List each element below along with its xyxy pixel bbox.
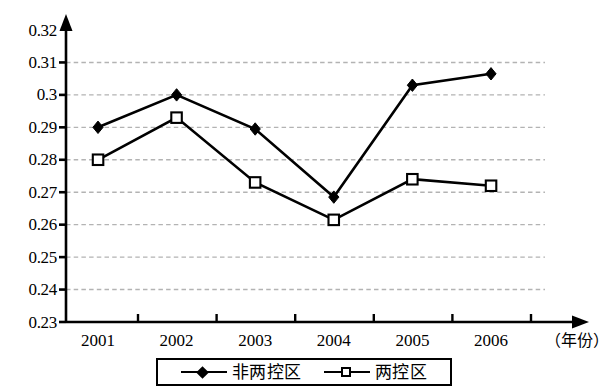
legend-item-label: 两控区 (375, 363, 428, 381)
x-axis-tick-label: 2001 (63, 332, 133, 350)
legend-item-non-two-control-zone: 非两控区 (181, 363, 302, 381)
x-axis-tick-label: 2002 (142, 332, 212, 350)
x-axis-tick-label: 2006 (456, 332, 526, 350)
chart-legend: 非两控区 两控区 (156, 358, 452, 386)
line-chart: 0.320.310.30.290.280.270.260.250.240.23 … (0, 0, 609, 391)
x-axis-title: （年份） (545, 331, 609, 350)
filled-diamond-marker-icon (181, 365, 227, 379)
x-axis-tick-label: 2004 (299, 332, 369, 350)
legend-item-label: 非两控区 (232, 363, 302, 381)
open-square-marker-icon (324, 365, 370, 379)
x-axis-tick-labels: 200120022003200420052006 (0, 0, 609, 391)
x-axis-tick-label: 2005 (377, 332, 447, 350)
x-axis-tick-label: 2003 (220, 332, 290, 350)
legend-item-two-control-zone: 两控区 (324, 363, 428, 381)
